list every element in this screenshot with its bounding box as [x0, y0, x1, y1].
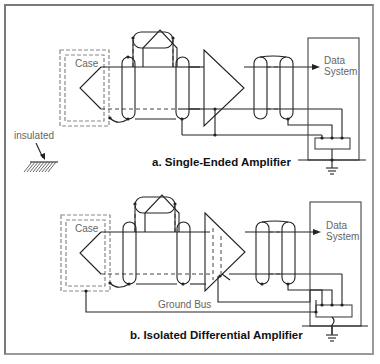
- insulated-label: insulated: [14, 130, 54, 141]
- earth-ground-icon: [326, 168, 338, 174]
- caption-a: a. Single-Ended Amplifier: [152, 156, 291, 168]
- cable-shield-1: [123, 222, 136, 284]
- panel-b-isolated-differential: Case Ground Bus: [61, 195, 368, 341]
- isolated-differential-amplifier: [205, 213, 245, 291]
- case-label: Case: [75, 223, 99, 234]
- data-system-label-line1: Data: [324, 55, 346, 66]
- case-label: Case: [75, 58, 99, 69]
- insulated-hatch-icon: [24, 162, 58, 172]
- terminal-block: [316, 305, 352, 317]
- cable-shield-2: [176, 57, 189, 119]
- case-enclosure: Case: [61, 215, 110, 291]
- panel-a-single-ended: Case: [60, 30, 366, 174]
- output-shield-1: [254, 57, 267, 119]
- output-shield-1: [256, 222, 269, 284]
- data-system-label-line1: Data: [326, 220, 348, 231]
- shield-loop-top: [133, 32, 173, 48]
- caption-b: b. Isolated Differential Amplifier: [130, 329, 303, 341]
- sensor-junction: [80, 67, 101, 109]
- output-shield-2: [280, 57, 293, 119]
- ground-bus-label: Ground Bus: [158, 299, 211, 310]
- sensor-junction: [80, 232, 101, 274]
- data-system-label-line2: System: [324, 66, 357, 77]
- terminal-block: [315, 138, 350, 149]
- wiring-diagram: Case: [0, 0, 380, 364]
- earth-ground-icon: [326, 326, 338, 341]
- shield-loop-top: [135, 197, 175, 213]
- output-shield-2: [282, 222, 295, 284]
- insulated-legend: insulated: [14, 130, 58, 172]
- data-system-label-line2: System: [326, 231, 359, 242]
- single-ended-amplifier: [204, 50, 244, 126]
- case-enclosure: Case: [60, 50, 109, 126]
